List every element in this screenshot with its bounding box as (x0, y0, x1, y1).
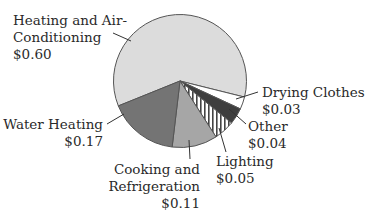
svg-text:$0.03: $0.03 (262, 101, 301, 117)
svg-text:$0.17: $0.17 (64, 133, 103, 149)
leader-water (107, 114, 124, 124)
label-other: Other $0.04 (248, 118, 288, 151)
svg-text:$0.11: $0.11 (161, 195, 200, 211)
label-heating: Heating and Air- Conditioning $0.60 (13, 12, 127, 62)
svg-text:Conditioning: Conditioning (13, 29, 102, 45)
svg-text:$0.60: $0.60 (13, 46, 52, 62)
svg-text:Heating and Air-: Heating and Air- (13, 12, 127, 28)
label-drying: Drying Clothes $0.03 (262, 84, 365, 117)
svg-text:Drying Clothes: Drying Clothes (262, 84, 365, 100)
label-lighting: Lighting $0.05 (216, 153, 274, 186)
svg-text:Cooking and: Cooking and (114, 161, 200, 177)
label-water-heating: Water Heating $0.17 (3, 116, 103, 149)
svg-text:Water Heating: Water Heating (3, 116, 103, 132)
svg-text:$0.05: $0.05 (216, 170, 255, 186)
svg-text:Other: Other (248, 118, 288, 134)
svg-text:$0.04: $0.04 (248, 135, 287, 151)
pie-slices (113, 14, 246, 147)
svg-text:Refrigeration: Refrigeration (108, 178, 200, 194)
label-cooking: Cooking and Refrigeration $0.11 (108, 161, 200, 211)
pie-chart: Heating and Air- Conditioning $0.60 Dryi… (0, 0, 375, 217)
leader-heating (113, 33, 131, 41)
svg-text:Lighting: Lighting (216, 153, 274, 169)
